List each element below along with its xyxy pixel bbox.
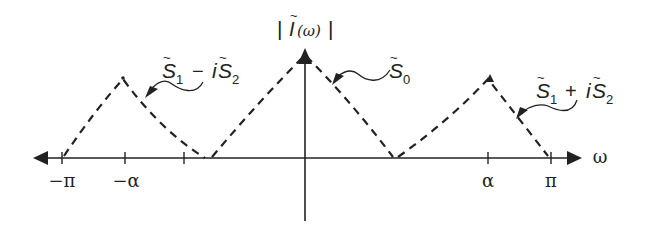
svg-text:~: ~ [593, 70, 601, 85]
svg-text:2: 2 [232, 72, 239, 87]
x-axis-label-omega: ω [593, 146, 608, 167]
pointer-center-arrowhead-icon [332, 73, 344, 85]
x-axis-right-arrow-icon [567, 151, 582, 165]
tick-label-alpha: α [482, 170, 494, 191]
spectrum-diagram: −π −α α π ω | I ~ (ω) | S ~ 1 − i S [0, 0, 645, 236]
svg-text:−: − [192, 60, 204, 82]
pointer-left-arrowhead-icon [145, 86, 158, 98]
y-axis-label: | I ~ (ω) | [277, 8, 333, 40]
svg-text:~: ~ [163, 50, 171, 65]
y-axis [298, 48, 312, 221]
svg-text:|: | [328, 17, 333, 40]
svg-text:~: ~ [537, 70, 545, 85]
svg-text:~: ~ [219, 50, 227, 65]
curve-right-peak [398, 79, 548, 157]
svg-text:2: 2 [606, 92, 613, 107]
curve-center-peak [212, 55, 393, 157]
y-axis-arrow-icon [298, 48, 312, 64]
right-peak-dot [486, 74, 494, 82]
x-axis [33, 151, 582, 165]
label-right-peak: S ~ 1 + i S ~ 2 [536, 70, 613, 107]
label-left-peak: S ~ 1 − i S ~ 2 [162, 50, 239, 87]
svg-text:+: + [565, 80, 577, 102]
svg-text:0: 0 [403, 72, 410, 87]
x-axis-left-arrow-icon [33, 151, 48, 165]
tick-label-pi: π [545, 170, 557, 191]
svg-text:~: ~ [390, 50, 398, 65]
svg-text:~: ~ [290, 8, 298, 23]
svg-text:1: 1 [176, 72, 183, 87]
tick-labels: −π −α α π ω [49, 146, 608, 191]
spectrum-curves [64, 55, 548, 158]
pointer-center [338, 70, 390, 80]
left-peak-dot [121, 76, 125, 80]
tick-label-minus-pi: −π [49, 170, 76, 191]
curve-left-peak [64, 79, 205, 158]
tick-label-minus-alpha: −α [112, 170, 139, 191]
svg-text:(ω): (ω) [297, 22, 321, 40]
svg-text:1: 1 [550, 92, 557, 107]
label-center-peak: S ~ 0 [389, 50, 410, 87]
svg-text:|: | [277, 17, 282, 40]
